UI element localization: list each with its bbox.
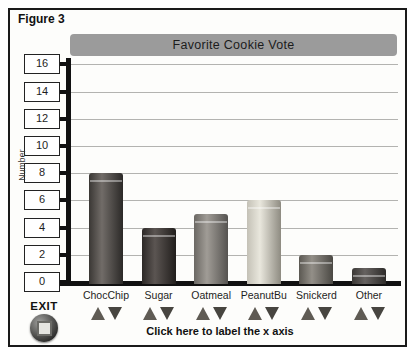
y-tick-label: 10: [24, 136, 60, 156]
bar-sugar: [142, 228, 176, 284]
decrease-arrow-icon[interactable]: [371, 307, 385, 320]
bar-chocchip: [89, 173, 123, 284]
bar-oatmeal: [194, 214, 228, 284]
chart-title-bar[interactable]: Favorite Cookie Vote: [70, 34, 397, 56]
gridline: [71, 146, 398, 147]
value-stepper-oatmeal: [196, 307, 227, 320]
y-tick-label: 14: [24, 82, 60, 102]
decrease-arrow-icon[interactable]: [318, 307, 332, 320]
decrease-arrow-icon[interactable]: [108, 307, 122, 320]
increase-arrow-icon[interactable]: [143, 307, 157, 320]
gridline: [71, 92, 398, 93]
increase-arrow-icon[interactable]: [91, 307, 105, 320]
bar-highlight: [248, 207, 280, 209]
y-tick-label: 4: [24, 218, 60, 238]
x-category-label-other[interactable]: Other: [337, 289, 401, 301]
decrease-arrow-icon[interactable]: [213, 307, 227, 320]
value-stepper-other: [354, 307, 385, 320]
bar-highlight: [195, 221, 227, 223]
value-stepper-sugar: [143, 307, 174, 320]
decrease-arrow-icon[interactable]: [265, 307, 279, 320]
y-axis-label: Number: [17, 135, 27, 195]
y-tick-label: 0: [24, 272, 60, 292]
exit-label: EXIT: [22, 300, 66, 312]
increase-arrow-icon[interactable]: [196, 307, 210, 320]
increase-arrow-icon[interactable]: [248, 307, 262, 320]
value-stepper-snickerd: [301, 307, 332, 320]
x-axis-label-button[interactable]: Click here to label the x axis: [115, 325, 325, 337]
figure-label: Figure 3: [18, 12, 65, 26]
increase-arrow-icon[interactable]: [354, 307, 368, 320]
value-stepper-chocchip: [91, 307, 122, 320]
y-tick-label: 6: [24, 190, 60, 210]
bar-highlight: [353, 275, 385, 277]
y-tick-label: 16: [24, 54, 60, 74]
y-tick-label: 12: [24, 109, 60, 129]
value-stepper-peanutbu: [248, 307, 279, 320]
bar-highlight: [300, 262, 332, 264]
bar-snickerd: [299, 255, 333, 284]
bar-other: [352, 268, 386, 284]
bar-highlight: [90, 180, 122, 182]
exit-stop-icon: [37, 321, 52, 336]
decrease-arrow-icon[interactable]: [160, 307, 174, 320]
gridline: [71, 119, 398, 120]
increase-arrow-icon[interactable]: [301, 307, 315, 320]
bar-peanutbu: [247, 200, 281, 284]
y-tick-label: 2: [24, 245, 60, 265]
y-tick-label: 8: [24, 163, 60, 183]
exit-button[interactable]: [30, 314, 58, 342]
bar-highlight: [143, 235, 175, 237]
gridline: [71, 64, 398, 65]
app-window: Figure 3 Favorite Cookie Vote 1614121086…: [8, 8, 407, 347]
chart-title: Favorite Cookie Vote: [172, 38, 294, 52]
